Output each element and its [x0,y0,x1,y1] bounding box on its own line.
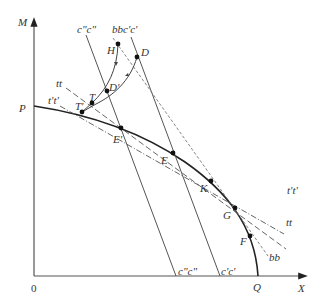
label-E-prime: E' [112,133,123,145]
line-bb [113,38,268,256]
label-T-prime: T' [75,100,84,112]
x-axis-label: X [297,282,306,294]
label-D: D [140,46,149,58]
label-cc2-top: c"c" [77,23,96,35]
point-G [233,206,238,211]
production-frontier-curve [34,106,258,276]
label-K: K [199,182,208,194]
label-E: E [160,154,168,166]
y-axis-label: M [17,16,28,28]
label-G: G [223,209,231,221]
line-t1t1 [60,106,284,234]
diagram: M X 0 P Q H D D' T T' E' E K G F c"c" bb… [0,0,322,304]
point-E-prime [119,126,124,131]
curve-end-label: Q [253,281,261,293]
point-E [171,151,176,156]
label-cc1-top: c'c' [123,23,138,35]
point-D [135,55,140,60]
label-tt-left: tt [56,77,63,89]
label-D-prime: D' [108,81,120,93]
label-t1t1-left: t't' [48,94,59,106]
arrow-d [125,73,129,76]
curve-start-label: P [18,102,26,114]
label-t1t1-right: t't' [287,184,298,196]
point-H [116,42,121,47]
point-F [248,234,253,239]
label-F: F [239,235,247,247]
label-cc1-bottom: c'c' [221,265,236,277]
label-bb-top: bb [112,23,124,35]
origin-label: 0 [31,282,37,294]
point-K [209,179,214,184]
line-cc1 [131,37,220,276]
label-cc2-bottom: c"c" [178,265,197,277]
label-H: H [106,44,116,56]
label-T: T [89,91,96,103]
label-tt-right: tt [286,216,293,228]
label-bb-right: bb [269,251,281,263]
line-tt [66,88,286,249]
